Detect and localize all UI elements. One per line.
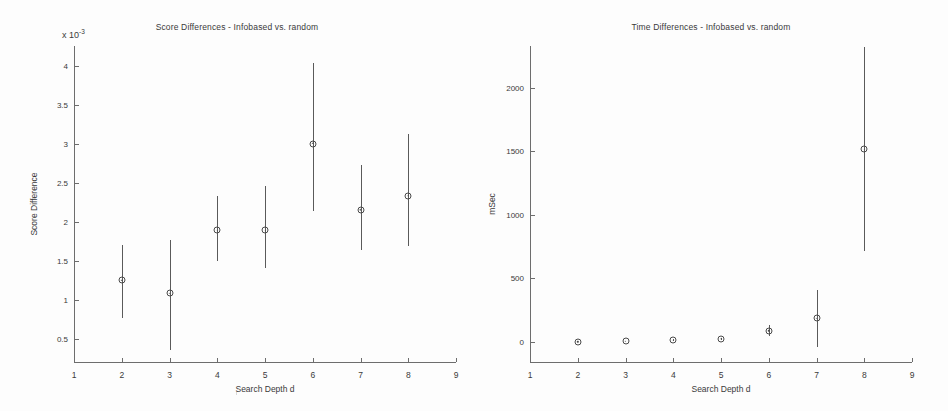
chart-title-time: Time Differences - Infobased vs. random [474, 22, 948, 32]
error-bar [408, 134, 409, 246]
x-tick-mark [313, 358, 314, 362]
data-point-marker [118, 277, 125, 284]
x-tick-label: 1 [72, 370, 77, 380]
x-tick-mark [408, 358, 409, 362]
x-tick-label: 8 [406, 370, 411, 380]
y-tick-mark [531, 342, 535, 343]
plot-area-score: 0.511.522.533.54123456789Search Depth dS… [74, 46, 456, 362]
x-tick-mark [530, 358, 531, 362]
y-tick-label: 1500 [484, 147, 524, 156]
data-point-marker [670, 337, 677, 344]
x-tick-label: 1 [528, 370, 533, 380]
x-tick-label: 9 [910, 370, 915, 380]
x-tick-label: 8 [862, 370, 867, 380]
y-axis-line [530, 46, 531, 362]
data-point-marker [622, 338, 629, 345]
plot-area-time: 0500100015002000123456789Search Depth dm… [530, 46, 912, 362]
y-tick-mark [75, 105, 79, 106]
y-axis-title: Score Difference [29, 172, 39, 235]
x-tick-mark [673, 358, 674, 362]
y-tick-mark [531, 88, 535, 89]
data-point-marker [574, 338, 581, 345]
x-axis-line [74, 362, 456, 363]
x-tick-label: 2 [575, 370, 580, 380]
x-tick-label: 5 [263, 370, 268, 380]
x-tick-mark [217, 358, 218, 362]
x-tick-mark [361, 358, 362, 362]
x-tick-label: 6 [310, 370, 315, 380]
y-tick-mark [75, 339, 79, 340]
x-tick-label: 4 [671, 370, 676, 380]
x-tick-mark [170, 358, 171, 362]
y-axis-title: mSec [487, 193, 497, 215]
y-tick-mark [75, 66, 79, 67]
x-tick-label: 7 [814, 370, 819, 380]
chart-panel-score-differences: Score Differences - Infobased vs. random… [0, 0, 474, 411]
x-tick-label: 7 [358, 370, 363, 380]
x-tick-mark [817, 358, 818, 362]
x-tick-mark [721, 358, 722, 362]
y-tick-mark [531, 151, 535, 152]
figure-root: Score Differences - Infobased vs. random… [0, 0, 948, 411]
x-tick-mark [456, 358, 457, 362]
x-tick-label: 9 [454, 370, 459, 380]
x-tick-mark [769, 358, 770, 362]
y-tick-mark [75, 300, 79, 301]
data-point-marker [166, 290, 173, 297]
x-tick-mark [578, 358, 579, 362]
data-point-marker [309, 140, 316, 147]
x-tick-label: 6 [766, 370, 771, 380]
y-tick-mark [531, 278, 535, 279]
x-tick-mark [265, 358, 266, 362]
chart-panel-time-differences: Time Differences - Infobased vs. random … [474, 0, 948, 411]
y-tick-mark [75, 261, 79, 262]
y-tick-label: 0 [484, 337, 524, 346]
data-point-marker [214, 227, 221, 234]
x-tick-mark [122, 358, 123, 362]
y-tick-mark [75, 183, 79, 184]
y-tick-label: 2000 [484, 83, 524, 92]
x-tick-mark [626, 358, 627, 362]
y-tick-label: 1.5 [28, 256, 68, 265]
data-point-marker [861, 146, 868, 153]
y-tick-label: 500 [484, 274, 524, 283]
x-tick-mark [74, 358, 75, 362]
y-tick-label: 1 [28, 295, 68, 304]
x-tick-label: 3 [167, 370, 172, 380]
y-tick-label: 0.5 [28, 334, 68, 343]
y-axis-line [74, 46, 75, 362]
data-point-marker [357, 206, 364, 213]
x-tick-label: 4 [215, 370, 220, 380]
y-tick-label: 3.5 [28, 100, 68, 109]
data-point-marker [813, 315, 820, 322]
data-point-marker [718, 335, 725, 342]
x-axis-title: Search Depth d [235, 384, 294, 394]
y-tick-label: 3 [28, 139, 68, 148]
y-axis-exponent-label: x 10-3 [62, 28, 85, 40]
scan-speck [236, 392, 237, 395]
y-tick-mark [531, 215, 535, 216]
x-tick-mark [912, 358, 913, 362]
x-axis-line [530, 362, 912, 363]
x-tick-mark [864, 358, 865, 362]
error-bar [313, 63, 314, 210]
data-point-marker [405, 192, 412, 199]
data-point-marker [765, 327, 772, 334]
x-tick-label: 3 [623, 370, 628, 380]
exponent-mantissa: x 10 [62, 30, 79, 40]
y-tick-mark [75, 144, 79, 145]
y-tick-label: 4 [28, 61, 68, 70]
y-tick-mark [75, 222, 79, 223]
x-axis-title: Search Depth d [691, 384, 750, 394]
x-tick-label: 2 [119, 370, 124, 380]
x-tick-label: 5 [719, 370, 724, 380]
data-point-marker [262, 227, 269, 234]
exponent-power: -3 [79, 28, 85, 35]
